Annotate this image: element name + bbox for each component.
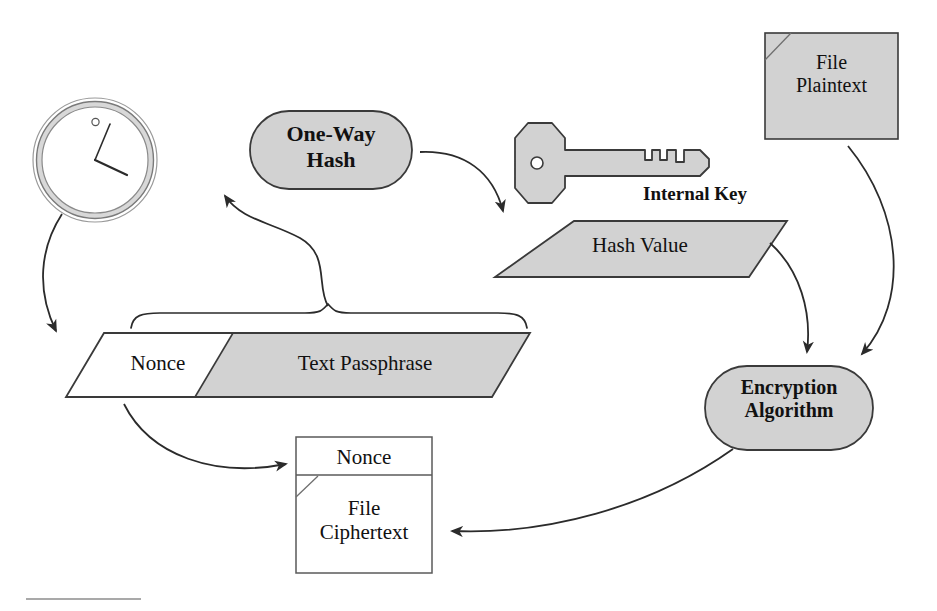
file-plaintext-shape [765, 33, 898, 139]
passphrase-brace [131, 304, 527, 328]
encryption-algorithm-shape [705, 366, 873, 450]
clock-to-nonce-arrow [43, 214, 62, 331]
plaintext-to-encryption-arrow [848, 146, 894, 354]
hash-value-to-encryption-arrow [770, 243, 808, 352]
diagram-canvas: One-Way Hash Internal Key Hash Value Fil… [0, 0, 937, 611]
key-icon [515, 123, 709, 203]
hash-to-hash-value-arrow [420, 152, 503, 211]
hash-value-shape [495, 221, 787, 277]
encryption-to-output-arrow [452, 449, 733, 531]
output-file-shape [296, 437, 432, 573]
nonce-to-output-arrow [124, 404, 286, 468]
clock-icon [33, 98, 157, 222]
brace-to-hash-arrow [225, 196, 328, 306]
diagram-svg [0, 0, 937, 611]
one-way-hash-shape [250, 111, 412, 189]
nonce-passphrase-shape [66, 333, 530, 397]
